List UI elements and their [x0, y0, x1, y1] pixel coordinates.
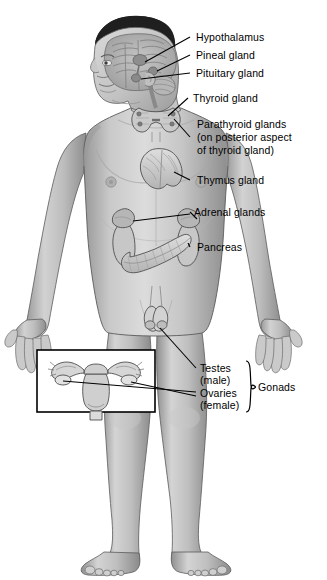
label-testes-line2: (male) — [200, 374, 230, 387]
label-ovaries-line1: Ovaries — [200, 387, 237, 400]
label-parathyroid-glands-line2: (on posterior aspect — [197, 131, 292, 144]
label-parathyroid-glands-line3: of thyroid gland) — [197, 144, 274, 157]
label-pineal-gland: Pineal gland — [196, 49, 255, 62]
gonads-brace — [243, 360, 257, 414]
ovary-right — [121, 375, 137, 385]
label-testes-line1: Testes — [200, 362, 231, 375]
head-profile — [91, 16, 179, 113]
pituitary-gland-organ — [132, 74, 141, 82]
label-parathyroid-glands-line1: Parathyroid glands — [197, 118, 286, 131]
female-organs-inset — [37, 350, 155, 420]
label-hypothalamus: Hypothalamus — [196, 31, 264, 44]
label-adrenal-glands: Adrenal glands — [194, 206, 265, 219]
label-pituitary-gland: Pituitary gland — [196, 67, 264, 80]
label-ovaries-line2: (female) — [200, 399, 239, 412]
ovary-left — [55, 375, 71, 385]
label-pancreas: Pancreas — [197, 241, 242, 254]
label-gonads: Gonads — [258, 381, 295, 394]
endocrine-system-figure — [0, 0, 327, 580]
label-thyroid-gland: Thyroid gland — [193, 92, 258, 105]
label-thymus-gland: Thymus gland — [197, 174, 264, 187]
hypothalamus-organ — [133, 55, 147, 66]
